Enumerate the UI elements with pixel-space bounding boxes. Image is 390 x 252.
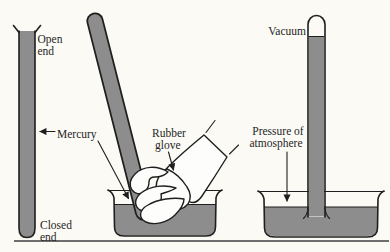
label-closed-end-line1: Closed <box>40 219 72 231</box>
label-vacuum: Vacuum <box>268 25 306 37</box>
label-mercury: Mercury <box>57 128 97 141</box>
left-tube <box>19 31 35 238</box>
pressure-label-group: Pressure of atmosphere <box>249 125 303 202</box>
right-tube-mercury-column <box>309 37 324 217</box>
left-tube-open-lip-left <box>14 26 20 33</box>
label-closed-end-line2: end <box>40 231 57 243</box>
label-pressure-line1: Pressure of <box>252 125 304 137</box>
diagram-canvas: Open end Closed end Mercury Rubber glove <box>0 0 390 252</box>
label-pressure-line2: atmosphere <box>249 137 302 150</box>
right-tube-group: Vacuum <box>268 16 329 219</box>
left-tube-open-lip-right <box>35 26 41 33</box>
label-open-end-line2: end <box>38 45 55 57</box>
mercury-label-group: Mercury <box>40 128 129 199</box>
label-rubber-glove-line2: glove <box>155 139 181 152</box>
arm-line-top <box>206 121 215 133</box>
mercury-barometer-diagram: Open end Closed end Mercury Rubber glove <box>0 0 390 252</box>
label-rubber-glove-line1: Rubber <box>152 127 186 139</box>
arm-line-bottom <box>230 145 239 154</box>
